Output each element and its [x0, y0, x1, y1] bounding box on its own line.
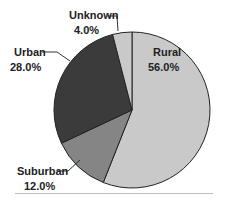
label-suburban-value: 12.0%: [24, 180, 55, 192]
label-urban-value: 28.0%: [10, 61, 41, 73]
label-unknown-value: 4.0%: [74, 24, 99, 36]
pie-chart: Unknown 4.0% Urban 28.0% Rural 56.0% Sub…: [0, 0, 226, 210]
label-unknown-name: Unknown: [69, 9, 119, 21]
leader-line-urban: [42, 52, 70, 61]
label-urban-name: Urban: [14, 46, 46, 58]
label-rural-name: Rural: [153, 46, 181, 58]
bottom-divider: [15, 193, 213, 194]
label-suburban-name: Suburban: [17, 165, 69, 177]
pie-slices: [54, 32, 210, 188]
label-rural-value: 56.0%: [148, 61, 179, 73]
